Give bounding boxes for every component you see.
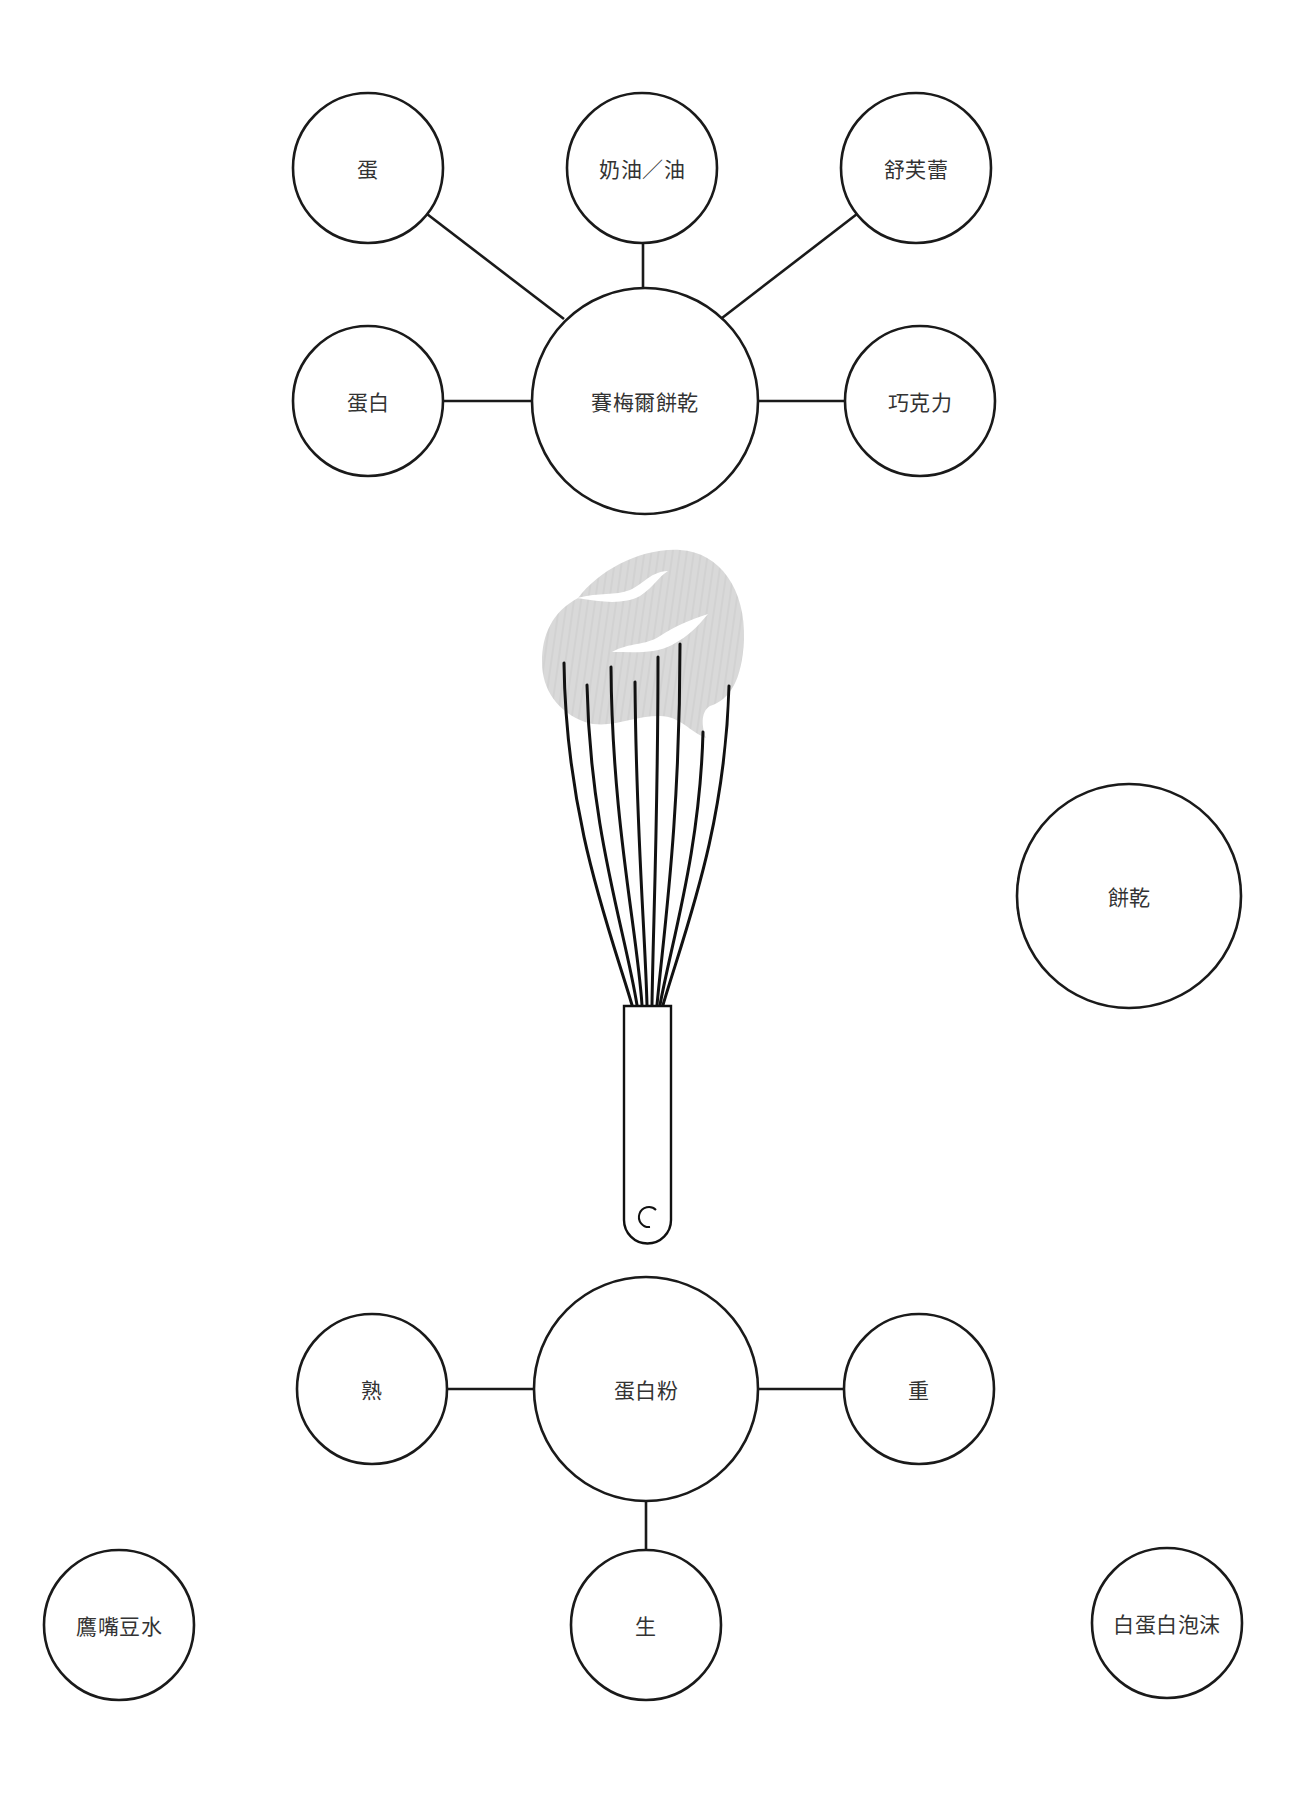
label-heavy: 重: [908, 1374, 930, 1404]
label-chocolate: 巧克力: [888, 386, 953, 416]
label-egg-white-powder: 蛋白粉: [614, 1374, 679, 1404]
label-aquafaba: 鷹嘴豆水: [76, 1610, 162, 1640]
label-raw: 生: [635, 1610, 657, 1640]
label-egg: 蛋: [357, 153, 379, 183]
label-souffle: 舒芙蕾: [884, 153, 949, 183]
whisk-wire: [660, 732, 703, 1005]
edge-egg: [427, 214, 564, 319]
label-cooked: 熟: [361, 1374, 383, 1404]
label-egg-white: 蛋白: [347, 386, 390, 416]
edge-souffle: [722, 214, 857, 318]
label-butter-oil: 奶油／油: [599, 153, 685, 183]
label-meringue-cookie: 賽梅爾餅乾: [591, 386, 699, 416]
whisk-illustration: [542, 550, 744, 1244]
label-albumin-foam: 白蛋白泡沫: [1113, 1608, 1221, 1638]
label-cookie: 餅乾: [1108, 881, 1151, 911]
